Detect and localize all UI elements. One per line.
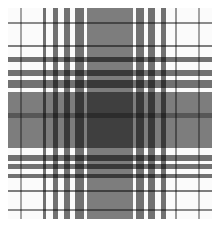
horizontal-stripe (8, 45, 212, 47)
plaid-image (0, 0, 220, 230)
horizontal-stripe (8, 22, 212, 24)
horizontal-stripe (8, 113, 212, 118)
horizontal-stripe (8, 190, 212, 192)
horizontal-stripe (8, 80, 212, 88)
horizontal-stripe (8, 155, 212, 161)
horizontal-stripe (8, 57, 212, 62)
horizontal-stripe (8, 174, 212, 178)
tartan-pattern (8, 8, 212, 219)
horizontal-stripe (8, 92, 212, 148)
horizontal-stripe (8, 209, 212, 211)
horizontal-stripe (8, 164, 212, 169)
horizontal-stripe (8, 70, 212, 76)
